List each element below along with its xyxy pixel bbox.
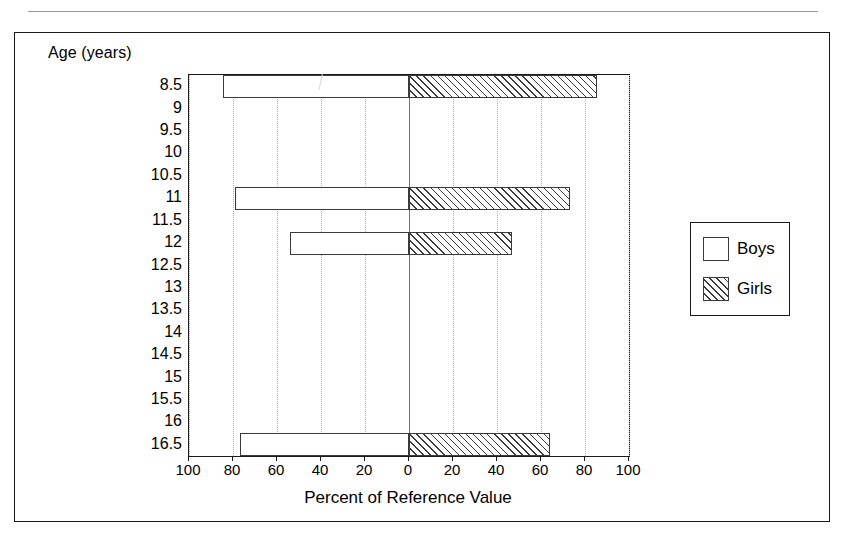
gridline bbox=[629, 75, 630, 456]
horizontal-rule bbox=[28, 11, 818, 12]
x-tick-label-10: 100 bbox=[603, 461, 653, 479]
y-tick-label-15.5: 15.5 bbox=[122, 391, 182, 407]
y-tick-label-14.5: 14.5 bbox=[122, 346, 182, 362]
cropped-caption-text bbox=[0, 0, 844, 5]
x-tick-label-1: 80 bbox=[207, 461, 257, 479]
y-tick-label-13.5: 13.5 bbox=[122, 301, 182, 317]
x-tick-label-8: 60 bbox=[515, 461, 565, 479]
legend: Boys Girls bbox=[690, 222, 790, 316]
bar-girls-age-11 bbox=[409, 187, 570, 210]
bar-boys-age-8.5 bbox=[223, 75, 409, 98]
x-tick-label-3: 40 bbox=[295, 461, 345, 479]
legend-item-girls: Girls bbox=[703, 275, 772, 303]
x-tick-label-4: 20 bbox=[339, 461, 389, 479]
y-tick-label-11: 11 bbox=[122, 189, 182, 205]
x-tick-label-2: 60 bbox=[251, 461, 301, 479]
bar-boys-age-12 bbox=[290, 232, 409, 255]
y-tick-label-16: 16 bbox=[122, 413, 182, 429]
y-tick-label-14: 14 bbox=[122, 324, 182, 340]
plot-area bbox=[188, 74, 630, 457]
legend-item-boys: Boys bbox=[703, 235, 775, 263]
y-tick-label-10.5: 10.5 bbox=[122, 167, 182, 183]
figure-page: Age (years) 8.599.51010.51111.51212.5131… bbox=[0, 0, 844, 543]
x-tick-label-9: 80 bbox=[559, 461, 609, 479]
y-tick-label-9.5: 9.5 bbox=[122, 122, 182, 138]
y-tick-label-13: 13 bbox=[122, 279, 182, 295]
y-tick-label-10: 10 bbox=[122, 144, 182, 160]
bar-girls-age-12 bbox=[409, 232, 512, 255]
x-tick-label-0: 100 bbox=[163, 461, 213, 479]
y-tick-labels: 8.599.51010.51111.51212.51313.51414.5151… bbox=[120, 74, 182, 455]
x-tick-labels: 10080604020020406080100 bbox=[188, 461, 628, 481]
y-tick-label-12.5: 12.5 bbox=[122, 257, 182, 273]
y-tick-label-15: 15 bbox=[122, 369, 182, 385]
x-axis-title: Percent of Reference Value bbox=[188, 488, 628, 508]
x-tick-label-6: 20 bbox=[427, 461, 477, 479]
y-tick-label-12: 12 bbox=[122, 234, 182, 250]
legend-label-girls: Girls bbox=[737, 280, 772, 298]
y-tick-label-8.5: 8.5 bbox=[122, 77, 182, 93]
bar-boys-age-11 bbox=[235, 187, 409, 210]
legend-label-boys: Boys bbox=[737, 240, 775, 258]
bar-boys-age-16.5 bbox=[240, 433, 409, 456]
bar-girls-age-8.5 bbox=[409, 75, 597, 98]
legend-swatch-boys-icon bbox=[703, 237, 729, 261]
bars-layer bbox=[189, 75, 629, 456]
y-tick-label-11.5: 11.5 bbox=[122, 212, 182, 228]
y-tick-label-9: 9 bbox=[122, 100, 182, 116]
legend-swatch-girls-icon bbox=[703, 277, 729, 301]
bar-girls-age-16.5 bbox=[409, 433, 550, 456]
y-tick-label-16.5: 16.5 bbox=[122, 436, 182, 452]
x-tick-label-5: 0 bbox=[383, 461, 433, 479]
y-axis-title: Age (years) bbox=[48, 44, 132, 62]
x-tick-label-7: 40 bbox=[471, 461, 521, 479]
